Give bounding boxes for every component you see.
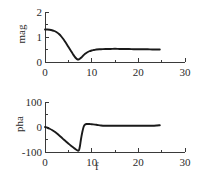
x-axis-title: f — [95, 160, 99, 172]
magnitude-xticklabel-0: 0 — [42, 66, 48, 78]
magnitude-plot-svg: 0 1 2 0 10 20 30 — [0, 0, 197, 90]
magnitude-curve — [45, 29, 160, 59]
magnitude-yticklabel-1: 1 — [37, 31, 43, 43]
figure-container: 0 1 2 0 10 20 30 mag — [0, 0, 197, 180]
phase-curve — [45, 124, 160, 151]
phase-axes — [45, 102, 185, 152]
magnitude-y-axis-title: mag — [15, 12, 27, 56]
phase-xticklabel-0: 0 — [42, 156, 48, 168]
magnitude-yticklabel-2: 2 — [37, 6, 43, 18]
phase-xticklabel-30: 30 — [180, 156, 192, 168]
magnitude-xticklabel-30: 30 — [180, 66, 192, 78]
phase-yticklabel-0: 0 — [37, 121, 43, 133]
magnitude-panel: 0 1 2 0 10 20 30 — [0, 0, 197, 90]
phase-yticklabel-100: 100 — [26, 96, 43, 108]
magnitude-xticklabel-20: 20 — [133, 66, 145, 78]
magnitude-axes — [45, 12, 185, 62]
phase-y-axis-title: pha — [13, 102, 25, 146]
phase-yticklabel-neg100: -100 — [22, 146, 43, 158]
phase-xticklabel-20: 20 — [133, 156, 145, 168]
magnitude-xticklabel-10: 10 — [86, 66, 98, 78]
